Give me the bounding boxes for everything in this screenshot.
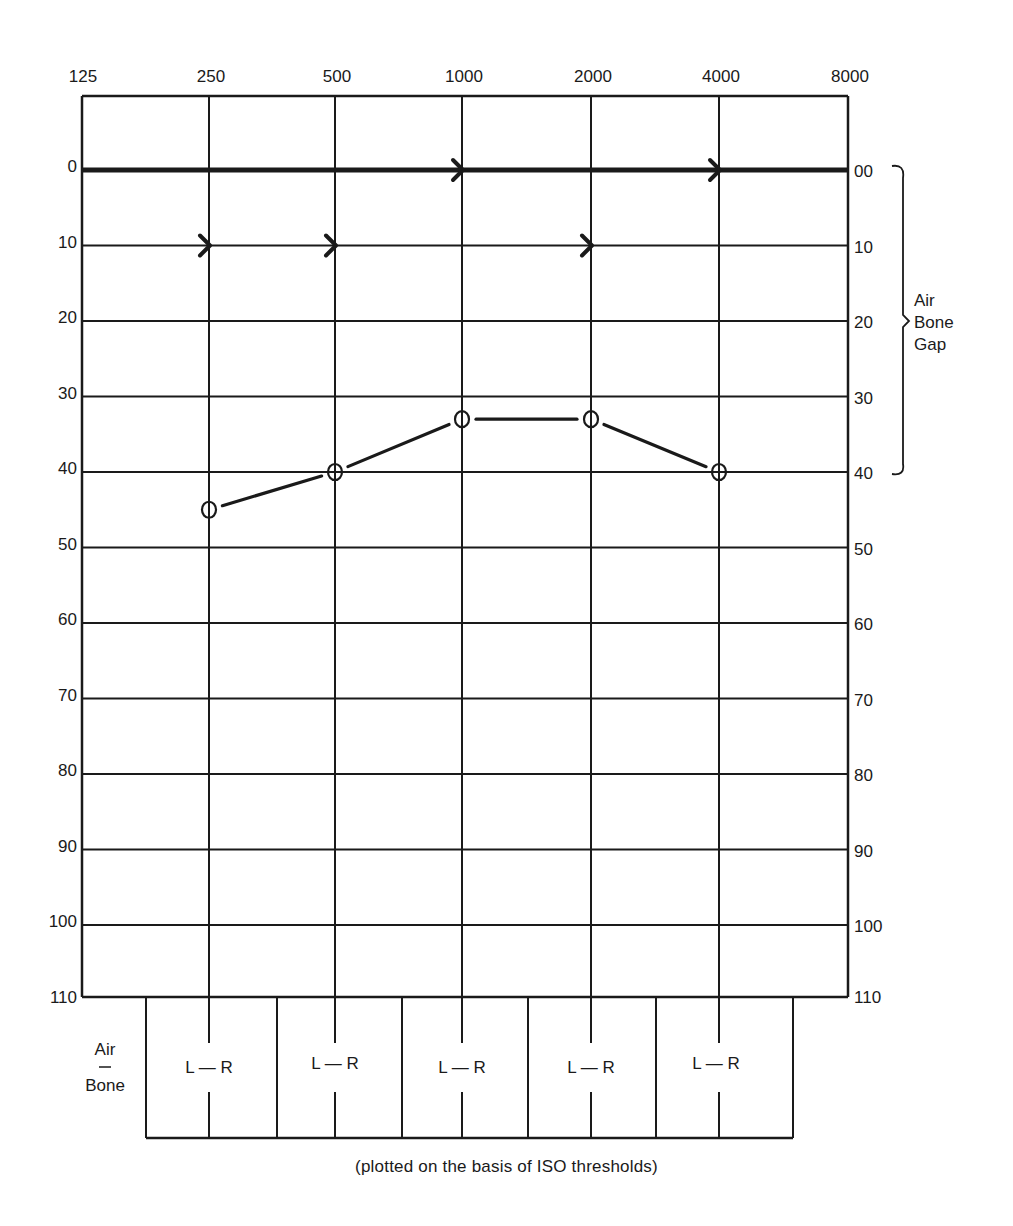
y-tick-label-right: 70 [854,691,873,710]
audiogram-chart: 1252505001000200040008000 01020304050607… [0,0,1013,1226]
y-axis-right-labels: 00102030405060708090100110 [854,162,882,1007]
table-cell-label: L — R [567,1058,615,1077]
y-tick-label-left: 80 [58,761,77,780]
air-bone-gap-bracket: AirBoneGap [892,166,954,475]
y-tick-label-right: 00 [854,162,873,181]
y-tick-label-left: 60 [58,610,77,629]
y-tick-label-left: 40 [58,459,77,478]
air-line-segment [222,476,321,506]
table-cell-label: L — R [311,1054,359,1073]
y-tick-label-right: 10 [854,238,873,257]
x-tick-label: 2000 [574,67,612,86]
x-tick-label: 250 [197,67,225,86]
y-tick-label-left: 20 [58,308,77,327]
y-tick-label-right: 90 [854,842,873,861]
air-line-segment [604,424,706,466]
y-tick-label-left: 50 [58,535,77,554]
y-tick-label-right: 30 [854,389,873,408]
air-bone-table: L — RL — RL — RL — RL — RAirBone [85,997,793,1138]
table-row-label-air: Air [95,1040,116,1059]
x-tick-label: 4000 [702,67,740,86]
bracket-shape [892,166,909,475]
x-tick-label: 125 [69,67,97,86]
y-tick-label-left: 0 [68,157,77,176]
caption: (plotted on the basis of ISO thresholds) [0,1157,1013,1177]
y-axis-left-labels: 0102030405060708090100110 [49,157,77,1007]
y-tick-label-right: 80 [854,766,873,785]
y-tick-label-left: 10 [58,233,77,252]
y-tick-label-left: 110 [50,988,77,1007]
y-tick-label-right: 100 [854,917,882,936]
table-cell-label: L — R [692,1054,740,1073]
air-bone-gap-label: Gap [914,335,946,354]
table-cell-label: L — R [185,1058,233,1077]
air-line-segment [348,425,449,467]
grid [82,96,848,997]
y-tick-label-right: 60 [854,615,873,634]
y-tick-label-left: 90 [58,837,77,856]
y-tick-label-right: 110 [854,988,881,1007]
bone-conduction-series [200,160,720,256]
x-tick-label: 500 [323,67,351,86]
air-bone-gap-label: Bone [914,313,954,332]
table-row-label-bone: Bone [85,1076,125,1095]
y-tick-label-left: 70 [58,686,77,705]
x-tick-label: 8000 [831,67,869,86]
x-tick-label: 1000 [445,67,483,86]
air-bone-gap-label: Air [914,291,935,310]
y-tick-label-right: 20 [854,313,873,332]
y-tick-label-left: 30 [58,384,77,403]
x-axis-labels: 1252505001000200040008000 [69,67,869,86]
air-conduction-series [202,411,726,518]
table-cell-label: L — R [438,1058,486,1077]
y-tick-label-left: 100 [49,912,77,931]
y-tick-label-right: 50 [854,540,873,559]
y-tick-label-right: 40 [854,464,873,483]
